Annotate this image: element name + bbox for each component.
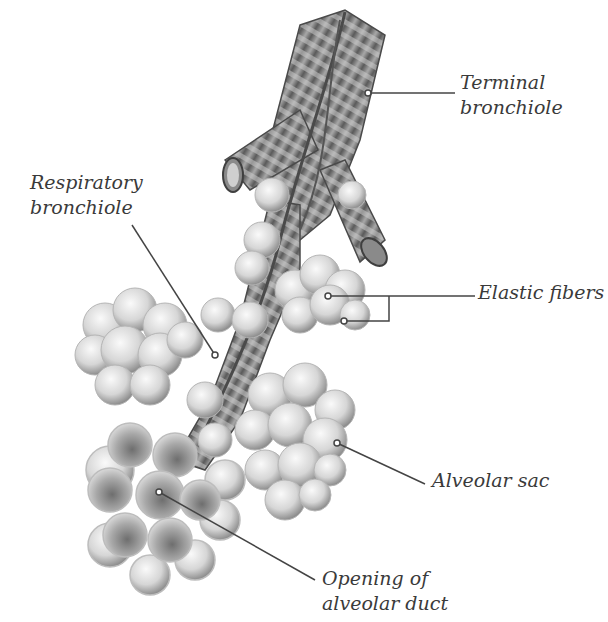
label-line: bronchiole [460,95,563,120]
label-line: Terminal [460,70,563,95]
label-line: Opening of [322,566,448,591]
label-line: Alveolar sac [432,468,549,493]
label-elastic-fibers: Elastic fibers [478,280,604,305]
label-line: bronchiole [30,195,143,220]
label-line: Respiratory [30,170,143,195]
label-alveolar-sac: Alveolar sac [432,468,549,493]
label-line: Elastic fibers [478,280,604,305]
label-opening-of-alveolar-duct: Opening of alveolar duct [322,566,448,616]
label-respiratory-bronchiole: Respiratory bronchiole [30,170,143,220]
label-line: alveolar duct [322,591,448,616]
label-terminal-bronchiole: Terminal bronchiole [460,70,563,120]
